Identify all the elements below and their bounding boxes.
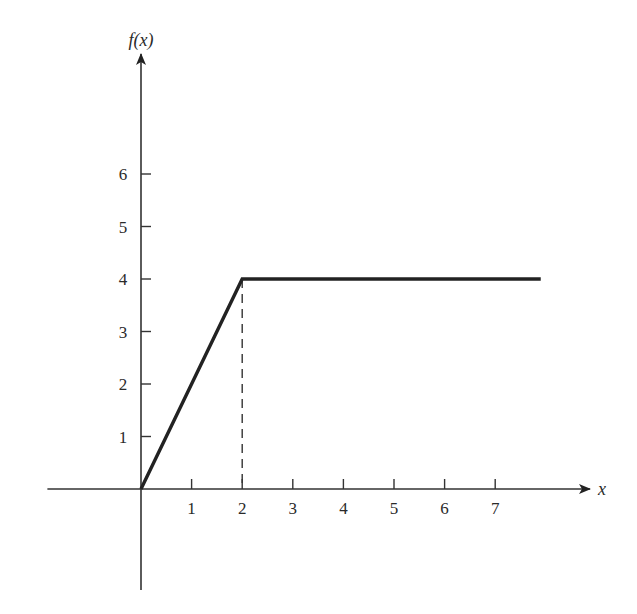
y-tick-label: 5 bbox=[119, 218, 128, 237]
series-line-fx bbox=[141, 279, 541, 489]
chart: 1234567 123456 x f(x) bbox=[0, 0, 637, 614]
x-tick-label: 5 bbox=[390, 499, 399, 518]
x-axis-label: x bbox=[597, 479, 606, 499]
y-tick-label: 2 bbox=[119, 375, 128, 394]
y-tick-label: 6 bbox=[119, 165, 128, 184]
series bbox=[141, 279, 541, 489]
y-ticks: 123456 bbox=[119, 165, 151, 447]
x-tick-label: 3 bbox=[289, 499, 298, 518]
x-ticks: 1234567 bbox=[187, 479, 500, 518]
x-tick-label: 2 bbox=[238, 499, 247, 518]
x-tick-label: 4 bbox=[339, 499, 348, 518]
y-tick-label: 4 bbox=[119, 270, 128, 289]
x-tick-label: 1 bbox=[187, 499, 196, 518]
axes bbox=[47, 54, 590, 590]
y-axis-label: f(x) bbox=[129, 30, 154, 51]
y-tick-label: 3 bbox=[119, 323, 128, 342]
y-tick-label: 1 bbox=[119, 428, 128, 447]
x-tick-label: 6 bbox=[440, 499, 449, 518]
x-tick-label: 7 bbox=[491, 499, 500, 518]
